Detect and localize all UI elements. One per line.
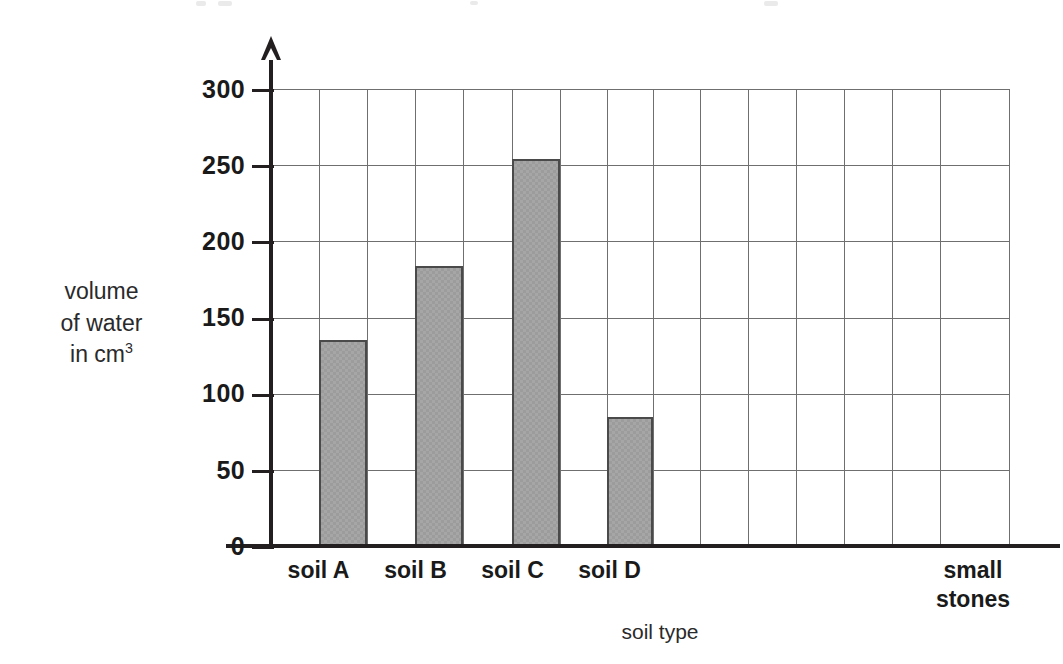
scan-artifact	[470, 1, 478, 5]
x-category-label-line-2: stones	[936, 586, 1010, 612]
y-tick-label-300: 300	[202, 77, 245, 102]
y-axis-title-line-3: in cm	[70, 341, 125, 367]
bar-soil-a	[319, 340, 368, 546]
y-axis-title-superscript: 3	[125, 341, 133, 357]
y-tick-label-150: 150	[202, 305, 245, 330]
gridline-horizontal-100	[272, 394, 1010, 395]
x-axis-title: soil type	[560, 620, 760, 644]
bar-chart: volumeof waterin cm3	[0, 0, 1063, 664]
gridline-vertical-6	[560, 89, 561, 546]
y-tick-label-200: 200	[202, 229, 245, 254]
scan-artifact	[764, 1, 778, 6]
scan-artifact	[196, 1, 206, 6]
gridline-vertical-11	[796, 89, 797, 546]
y-tick-label-0: 0	[231, 534, 245, 559]
x-category-label-soil-a: soil A	[270, 556, 367, 585]
y-tick-150	[252, 318, 274, 321]
gridline-vertical-2	[367, 89, 368, 546]
gridline-vertical-8	[653, 89, 654, 546]
y-tick-50	[252, 470, 274, 473]
gridline-vertical-10	[748, 89, 749, 546]
x-category-label-soil-c: soil C	[464, 556, 561, 585]
gridline-horizontal-200	[272, 241, 1010, 242]
gridline-vertical-14	[940, 89, 941, 546]
gridline-vertical-13	[892, 89, 893, 546]
bar-soil-d	[607, 417, 653, 546]
arrow-up-notch	[265, 48, 277, 60]
gridline-vertical-12	[844, 89, 845, 546]
y-tick-100	[252, 394, 274, 397]
gridline-horizontal-150	[272, 318, 1010, 319]
x-category-label-soil-b: soil B	[367, 556, 464, 585]
y-tick-200	[252, 241, 274, 244]
gridline-vertical-15	[1009, 89, 1010, 546]
y-tick-label-50: 50	[216, 458, 245, 483]
y-axis-title-line-1: volume	[64, 278, 138, 304]
y-tick-label-100: 100	[202, 381, 245, 406]
x-category-label-soil-d: soil D	[561, 556, 658, 585]
scan-artifact	[218, 1, 232, 6]
x-category-label-line-1: small	[944, 557, 1003, 583]
y-axis-title: volumeof waterin cm3	[14, 276, 189, 371]
bar-soil-c	[512, 159, 560, 546]
gridline-horizontal-250	[272, 165, 1010, 166]
y-tick-0	[252, 546, 274, 549]
gridline-vertical-4	[463, 89, 464, 546]
y-axis-line	[269, 52, 273, 549]
bar-soil-b	[415, 266, 463, 546]
x-category-label-small-stones: smallstones	[913, 556, 1033, 614]
plot-area	[272, 89, 1010, 546]
gridline-vertical-9	[700, 89, 701, 546]
x-axis-line	[226, 544, 1060, 548]
y-tick-label-250: 250	[202, 153, 245, 178]
y-tick-250	[252, 165, 274, 168]
y-axis-title-line-2: of water	[61, 310, 143, 336]
y-tick-300	[252, 89, 274, 92]
gridline-horizontal-300	[272, 89, 1010, 90]
